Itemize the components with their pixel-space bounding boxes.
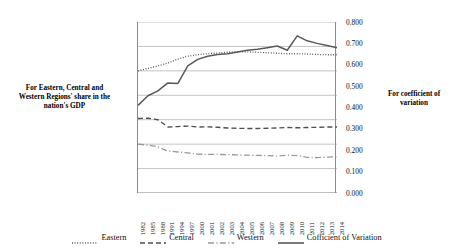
legend-label: Western	[237, 233, 264, 242]
secondary-y-tick-label: 0.600	[346, 60, 363, 69]
chart-figure: For Eastern, Central and Western Regions…	[0, 0, 454, 250]
legend-item-central[interactable]: Central	[140, 233, 193, 242]
secondary-y-tick-label: 0.100	[346, 167, 363, 176]
series-line-eastern	[138, 52, 337, 71]
chart-legend: EasternCentralWesternCofficient of Varia…	[0, 228, 454, 246]
legend-swatch-icon	[208, 233, 234, 241]
secondary-y-tick-label: 0.800	[346, 18, 363, 27]
secondary-y-tick-label: 0.300	[346, 124, 363, 133]
legend-swatch-icon	[140, 233, 166, 241]
secondary-y-tick-label: 0.700	[346, 39, 363, 48]
secondary-y-tick-label: 0.200	[346, 146, 363, 155]
legend-item-western[interactable]: Western	[208, 233, 264, 242]
legend-item-cofficient-of-variation[interactable]: Cofficient of Variation	[278, 233, 382, 242]
legend-swatch-icon	[278, 233, 304, 241]
plot-svg	[138, 22, 337, 193]
secondary-y-tick-label: 0.500	[346, 82, 363, 91]
left-axis-title: For Eastern, Central and Western Regions…	[16, 84, 113, 112]
series-line-western	[138, 144, 337, 157]
right-axis-title: For coefficient of variation	[374, 90, 454, 108]
legend-label: Cofficient of Variation	[307, 233, 382, 242]
secondary-y-tick-label: 0.400	[346, 103, 363, 112]
plot-area	[137, 22, 336, 193]
x-axis-tick-labels: 1982198519881991199419972000200120022003…	[137, 196, 336, 224]
legend-item-eastern[interactable]: Eastern	[72, 233, 126, 242]
secondary-y-tick-label: 0.000	[346, 189, 363, 198]
legend-label: Central	[169, 233, 193, 242]
legend-swatch-icon	[72, 233, 98, 241]
legend-label: Eastern	[101, 233, 126, 242]
